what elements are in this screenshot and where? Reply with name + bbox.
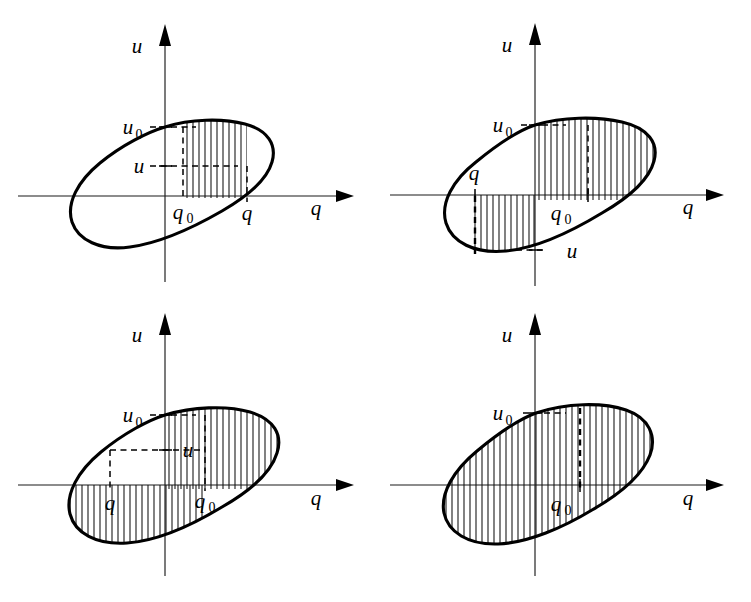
- x-axis-arrow-icon: [336, 479, 354, 491]
- x-axis-label: q: [311, 196, 322, 220]
- q-label: q: [242, 201, 253, 225]
- y-axis-label: u: [502, 33, 513, 57]
- u0-label-sub: 0: [506, 413, 513, 428]
- u0-label-sub: 0: [506, 125, 513, 140]
- y-axis-arrow-icon: [529, 313, 541, 335]
- x-axis-label: q: [683, 195, 694, 219]
- panel-top-left: u q u 0 u q 0 q: [0, 0, 375, 301]
- y-axis-label: u: [132, 34, 143, 58]
- u-lower-label: u: [567, 239, 578, 263]
- panel-bottom-right: u q u 0 q 0: [376, 291, 751, 592]
- y-axis-arrow-icon: [159, 24, 171, 46]
- q-label: q: [105, 491, 116, 515]
- u-label: u: [183, 438, 194, 462]
- x-axis-label: q: [311, 486, 322, 510]
- y-axis-arrow-icon: [159, 313, 171, 335]
- x-axis-arrow-icon: [706, 189, 724, 201]
- q0-label: q: [195, 489, 206, 513]
- q0-label: q: [551, 201, 562, 225]
- x-axis-label: q: [683, 486, 694, 510]
- u0-label: u: [493, 113, 504, 137]
- u0-label-sub: 0: [136, 415, 143, 430]
- figure-root: u q u 0 u q 0 q: [0, 0, 751, 602]
- y-axis-label: u: [132, 323, 143, 347]
- q0-label-sub: 0: [209, 500, 216, 515]
- hatch-region-lower-left: [64, 479, 202, 557]
- u0-label: u: [123, 115, 134, 139]
- x-axis-arrow-icon: [336, 190, 354, 202]
- u0-label: u: [123, 403, 134, 427]
- hatch-region-full-loop: [446, 391, 650, 561]
- u-label: u: [134, 154, 145, 178]
- q-label: q: [469, 161, 480, 185]
- x-axis-arrow-icon: [706, 479, 724, 491]
- q0-label: q: [551, 492, 562, 516]
- hysteresis-loop-curve: [70, 120, 273, 248]
- q0-label: q: [173, 200, 184, 224]
- panel-top-right: u q u 0 q q 0 u: [376, 0, 751, 301]
- u0-label-sub: 0: [136, 127, 143, 142]
- q0-label-sub: 0: [565, 212, 572, 227]
- y-axis-arrow-icon: [529, 23, 541, 45]
- u0-label: u: [493, 401, 504, 425]
- q0-label-sub: 0: [565, 503, 572, 518]
- panel-bottom-left: u q u 0 u q q 0: [0, 291, 375, 592]
- q0-label-sub: 0: [187, 211, 194, 226]
- y-axis-label: u: [502, 323, 513, 347]
